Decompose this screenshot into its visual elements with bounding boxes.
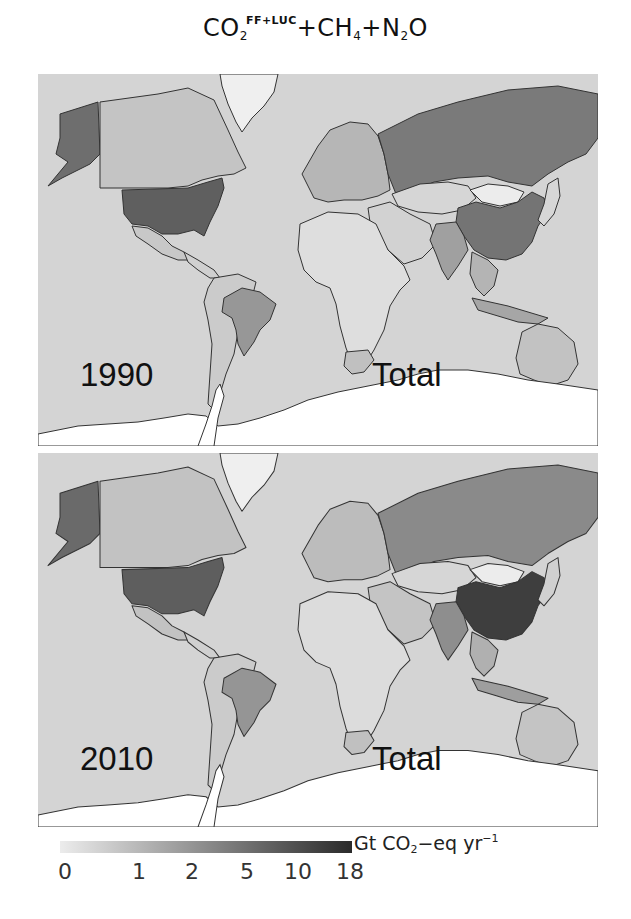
figure-title: CO2FF+LUC+CH4+N2O — [0, 14, 631, 43]
colorbar-tick-1: 1 — [132, 859, 146, 884]
title-co2: CO — [203, 14, 240, 42]
colorbar — [60, 841, 352, 853]
panel-year-label: 2010 — [80, 740, 153, 778]
colorbar-unit-label: Gt CO2−eq yr−1 — [354, 832, 498, 856]
title-n2o-sub: 2 — [400, 29, 408, 43]
panel-variable-label: Total — [372, 740, 442, 778]
colorbar-tick-2: 2 — [185, 859, 199, 884]
map-panel-1990: 1990Total — [38, 74, 598, 446]
unit-main: Gt CO — [354, 832, 410, 854]
colorbar-tick-10: 10 — [284, 859, 312, 884]
title-n2o-tail: O — [409, 14, 428, 42]
title-n2o: +N — [361, 14, 400, 42]
map-panel-2010: 2010Total — [38, 453, 598, 827]
colorbar-tick-5: 5 — [240, 859, 254, 884]
colorbar-tick-0: 0 — [58, 859, 72, 884]
panel-variable-label: Total — [372, 356, 442, 394]
unit-rest: −eq yr — [417, 832, 482, 854]
unit-sup: −1 — [482, 832, 498, 845]
title-co2-sup: FF+LUC — [246, 14, 297, 27]
title-ch4: +CH — [297, 14, 353, 42]
panel-year-label: 1990 — [80, 356, 153, 394]
colorbar-tick-18: 18 — [336, 859, 364, 884]
title-co2-sub: 2 — [240, 29, 248, 43]
